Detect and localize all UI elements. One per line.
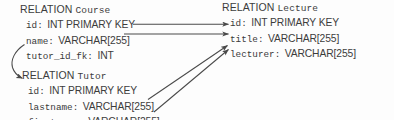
field-type: VARCHAR[255]	[285, 48, 356, 59]
relation-header-course: RELATION Course	[20, 3, 135, 17]
relation-name-lecture: Lecture	[278, 3, 319, 14]
field-name: id:	[28, 86, 45, 97]
field-type: VARCHAR[255]	[58, 35, 129, 46]
field-name: id:	[230, 18, 247, 29]
field-row: firstname: VARCHAR[255]	[22, 114, 160, 120]
field-row: id: INT PRIMARY KEY	[20, 17, 135, 33]
relation-name-course: Course	[76, 5, 111, 16]
schema-diagram-canvas: RELATION Course id: INT PRIMARY KEY name…	[0, 0, 394, 120]
field-type: INT	[97, 50, 113, 61]
field-name: title:	[230, 34, 263, 45]
field-row: title: VARCHAR[255]	[222, 31, 356, 47]
field-type: VARCHAR[255]	[268, 33, 339, 44]
field-type: INT PRIMARY KEY	[251, 17, 339, 28]
field-name: id:	[26, 20, 43, 31]
connector-tutor-firstname-to-lecture-lecturer	[154, 50, 229, 113]
relation-header-lecture: RELATION Lecture	[222, 1, 356, 15]
field-name: firstname:	[28, 117, 84, 120]
field-name: lastname:	[28, 102, 78, 113]
field-type: INT PRIMARY KEY	[49, 85, 137, 96]
relation-block-course: RELATION Course id: INT PRIMARY KEY name…	[20, 3, 135, 64]
field-name: lecturer:	[230, 49, 280, 60]
field-row: name: VARCHAR[255]	[20, 33, 135, 49]
field-type: INT PRIMARY KEY	[47, 19, 135, 30]
relation-header-tutor: RELATION Tutor	[22, 69, 160, 83]
relation-name-tutor: Tutor	[78, 71, 107, 82]
field-name: tutor_id_fk:	[26, 51, 93, 62]
field-type: VARCHAR[255]	[83, 101, 154, 112]
field-row: lastname: VARCHAR[255]	[22, 99, 160, 115]
relation-block-tutor: RELATION Tutor id: INT PRIMARY KEY lastn…	[22, 69, 160, 120]
field-row: id: INT PRIMARY KEY	[22, 83, 160, 99]
connector-tutor-lastname-to-lecture-lecturer	[148, 46, 228, 100]
relation-block-lecture: RELATION Lecture id: INT PRIMARY KEY tit…	[222, 1, 356, 62]
field-row: tutor_id_fk: INT	[20, 48, 135, 64]
field-row: lecturer: VARCHAR[255]	[222, 46, 356, 62]
field-row: id: INT PRIMARY KEY	[222, 15, 356, 31]
field-type: VARCHAR[255]	[88, 116, 159, 120]
field-name: name:	[26, 36, 54, 47]
